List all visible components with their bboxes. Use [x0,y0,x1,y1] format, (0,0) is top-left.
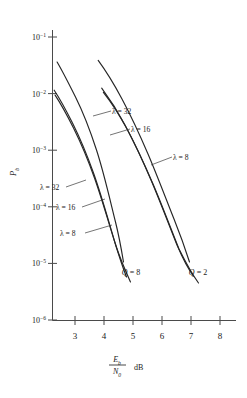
y-exponent: −5 [40,258,46,264]
leader-right-lambda-16 [110,129,130,135]
curve-q2-lambda-16 [102,88,194,276]
y-axis-title: Pb [8,168,20,177]
lambda-labels-right: λ = 32 λ = 16 λ = 8 [112,107,189,162]
leader-right-lambda-32 [93,111,111,116]
equals: = [44,183,52,192]
y-mantissa: 10 [32,203,40,212]
lambda-value: 16 [68,203,76,212]
lambda-labels-left: λ = 32 λ = 16 λ = 8 [40,183,76,238]
y-axis-title-text: Pb [8,168,20,177]
x-axis-title-numerator: Eb [112,355,121,366]
leader-left-lambda-8 [85,225,112,233]
equals: = [128,268,137,277]
q-value: 2 [203,268,207,277]
y-exponent: −4 [40,202,46,208]
group-labels: Q = 8 Q = 2 [122,268,207,277]
y-mantissa: 10 [32,33,40,42]
y-tick-label-1e-4: 10−4 [32,202,46,212]
y-exponent: −6 [40,315,46,321]
x-tick-label-3: 3 [73,331,78,341]
axes-group [48,30,236,325]
equals: = [177,153,185,162]
y-mantissa: 10 [32,146,40,155]
y-mantissa: 10 [32,259,40,268]
curve-q8-lambda-8 [55,95,130,282]
lambda-value: 16 [143,125,151,134]
x-tick-label-5: 5 [131,331,136,341]
y-exponent: −1 [40,32,46,38]
label-right-lambda-32: λ = 32 [112,107,132,116]
curve-group-q2 [98,60,198,283]
x-axis-title-units: dB [134,363,143,372]
curve-q2-lambda-8 [103,92,198,283]
label-group-q8: Q = 8 [122,268,140,277]
y-tick-label-1e-1: 10−1 [32,32,46,42]
label-left-lambda-16: λ = 16 [56,203,76,212]
curve-group-q8 [54,62,130,282]
equals: = [116,107,124,116]
y-tick-label-1e-3: 10−3 [32,145,46,155]
equals: = [135,125,143,134]
lambda-value: 32 [52,183,60,192]
x-axis-title: Eb N0 dB [109,355,143,378]
lambda-value: 8 [185,153,189,162]
x-tick-label-6: 6 [160,331,165,341]
y-tick-labels: 10−1 10−2 10−3 10−4 10−5 10−6 [32,32,46,325]
q-value: 8 [136,268,140,277]
label-left-lambda-8: λ = 8 [60,229,76,238]
y-exponent: −3 [40,145,46,151]
leader-left-lambda-16 [82,199,105,207]
label-left-lambda-32: λ = 32 [40,183,60,192]
x-tick-label-8: 8 [218,331,223,341]
chart-svg: 10−1 10−2 10−3 10−4 10−5 10−6 3 4 5 6 7 … [0,0,247,398]
x-title-den-sub: 0 [118,372,121,378]
chart-figure: 10−1 10−2 10−3 10−4 10−5 10−6 3 4 5 6 7 … [0,0,247,398]
equals: = [64,229,72,238]
curve-q8-lambda-16 [54,90,126,277]
label-group-q2: Q = 2 [189,268,207,277]
equals: = [195,268,204,277]
leader-lines [66,111,172,233]
x-axis-title-denominator: N0 [112,367,121,378]
lambda-value: 32 [124,107,132,116]
label-right-lambda-16: λ = 16 [131,125,151,134]
y-exponent: −2 [40,89,46,95]
y-mantissa: 10 [32,316,40,325]
y-axis-title-sub: b [14,168,20,171]
x-tick-labels: 3 4 5 6 7 8 [73,331,223,341]
y-mantissa: 10 [32,90,40,99]
x-tick-label-7: 7 [189,331,194,341]
y-tick-label-1e-6: 10−6 [32,315,46,325]
y-tick-label-1e-5: 10−5 [32,258,46,268]
y-tick-label-1e-2: 10−2 [32,89,46,99]
lambda-value: 8 [72,229,76,238]
leader-left-lambda-32 [66,180,86,187]
label-right-lambda-8: λ = 8 [173,153,189,162]
leader-right-lambda-8 [151,157,172,165]
x-tick-label-4: 4 [102,331,107,341]
equals: = [60,203,68,212]
